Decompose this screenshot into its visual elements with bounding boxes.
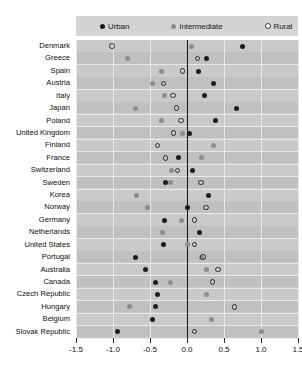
category-label: Australia [40,264,70,275]
category-label: Hungary [41,301,70,312]
category-label: United States [24,239,70,250]
vertical-gridline [224,40,225,338]
category-axis-labels: DenmarkGreeceSpainAustriaItalyJapanPolan… [0,40,73,338]
data-point-rural [109,43,114,48]
category-label: Italy [56,90,70,101]
axis-tick [298,338,299,343]
axis-tick-label: -0.5 [135,345,165,354]
axis-tick [261,338,262,343]
data-point-urban [234,106,239,111]
legend-item-urban: Urban [100,22,129,31]
category-label: Korea [50,189,70,200]
data-point-urban [197,230,202,235]
plot-area [76,40,298,338]
legend-label-rural: Rural [274,22,293,31]
axis-tick-label: -1.5 [61,345,91,354]
data-point-urban [206,193,211,198]
data-point-intermediate [150,81,155,86]
category-label: Portugal [42,251,70,262]
legend-label-intermediate: Intermediate [179,22,222,31]
legend-item-rural: Rural [265,22,293,31]
vertical-gridline [76,40,77,338]
category-label: United Kingdom [16,127,70,138]
data-point-intermediate [169,168,174,173]
data-point-rural [180,68,185,73]
data-point-rural [161,81,166,86]
data-point-intermediate [125,56,130,61]
rural-marker-icon [265,23,271,29]
data-point-rural [200,254,205,259]
vertical-gridline [298,40,299,338]
data-point-rural [175,168,180,173]
axis-tick-label: 0.0 [172,345,202,354]
legend-item-intermediate: Intermediate [171,22,222,31]
category-label: Belgium [43,313,70,324]
category-label: Japan [49,102,70,113]
data-point-rural [232,304,237,309]
axis-tick-label: 1.0 [246,345,276,354]
category-label: Spain [51,65,70,76]
data-point-rural [170,93,175,98]
data-point-rural [192,217,197,222]
category-label: Finland [45,139,70,150]
category-label: Netherlands [29,226,70,237]
category-label: Poland [46,115,70,126]
vertical-gridline [113,40,114,338]
data-point-urban [153,280,158,285]
chart-container: Urban Intermediate Rural DenmarkGreeceSp… [0,0,302,379]
axis-tick-label: 0.5 [209,345,239,354]
data-point-urban [240,44,245,49]
data-point-urban [213,118,218,123]
category-label: Sweden [43,177,70,188]
data-point-rural [174,105,179,110]
data-point-intermediate [168,280,173,285]
data-point-urban [185,205,190,210]
data-point-rural [163,155,168,160]
category-label: Norway [44,201,70,212]
data-point-urban [133,255,138,260]
axis-tick [224,338,225,343]
urban-marker-icon [100,24,105,29]
axis-tick-label: -1.0 [98,345,128,354]
axis-tick [187,338,188,343]
data-point-intermediate [209,317,214,322]
data-point-intermediate [204,267,209,272]
category-label: Austria [46,77,70,88]
axis-tick [150,338,151,343]
category-label: Greece [45,52,70,63]
data-point-intermediate [145,205,150,210]
data-point-intermediate [204,292,209,297]
category-label: France [46,152,70,163]
intermediate-marker-icon [171,24,176,29]
category-label: Canada [43,276,70,287]
data-point-intermediate [160,230,165,235]
zero-reference-line [187,40,188,338]
category-label: Czech Republic [17,288,70,299]
data-point-urban [155,292,160,297]
vertical-gridline [261,40,262,338]
category-label: Switzerland [31,164,70,175]
data-point-intermediate [162,93,167,98]
legend-label-urban: Urban [108,22,129,31]
category-label: Denmark [39,40,70,51]
data-point-intermediate [180,131,185,136]
data-point-intermediate [159,69,164,74]
data-point-intermediate [159,118,164,123]
data-point-rural [203,205,208,210]
data-point-rural [178,118,183,123]
data-point-rural [155,143,160,148]
data-point-intermediate [189,44,194,49]
category-label: Germany [39,214,70,225]
value-axis: -1.5-1.0-0.50.00.51.01.5 [76,338,298,368]
data-point-urban [162,218,167,223]
axis-tick [113,338,114,343]
data-point-intermediate [134,193,139,198]
data-point-intermediate [259,329,264,334]
data-point-rural [198,180,203,185]
chart-legend: Urban Intermediate Rural [76,16,298,36]
data-point-rural [171,130,176,135]
data-point-rural [215,267,220,272]
data-point-urban [150,317,155,322]
data-point-urban [196,69,201,74]
axis-tick [76,338,77,343]
